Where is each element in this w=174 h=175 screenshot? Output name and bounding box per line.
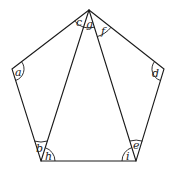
- angle-label-i: i: [126, 150, 130, 163]
- pentagon-diagram: a d c g f b h e i: [0, 0, 174, 175]
- angle-label-f: f: [100, 25, 107, 38]
- diagonal-top-to-bottom-left: [41, 10, 89, 161]
- angle-label-a: a: [15, 66, 22, 79]
- angle-label-b: b: [36, 142, 43, 155]
- angle-label-d: d: [152, 67, 159, 80]
- angle-label-c: c: [76, 16, 82, 29]
- pentagon-outline: [12, 10, 164, 161]
- angle-label-e: e: [133, 139, 140, 152]
- diagonal-top-to-bottom-right: [89, 10, 136, 161]
- angle-label-g: g: [86, 18, 93, 31]
- angle-label-h: h: [45, 150, 52, 163]
